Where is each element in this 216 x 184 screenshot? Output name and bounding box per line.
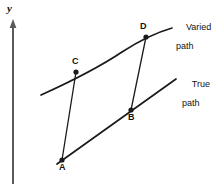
variational-paths-diagram: y A B C D Varied path True path — [0, 0, 216, 184]
true-path-label: True path — [182, 71, 210, 128]
y-axis-arrowhead — [10, 19, 17, 28]
y-axis-label: y — [7, 3, 12, 15]
y-axis — [10, 19, 17, 184]
varied-path-curve — [41, 28, 172, 95]
point-label-d: D — [140, 22, 147, 31]
point-marker-d — [143, 34, 148, 39]
point-marker-c — [73, 69, 78, 74]
true-path-label-line2: path — [182, 99, 210, 108]
varied-path-label-line1: Varied — [186, 22, 211, 32]
varied-path-label-line2: path — [176, 42, 211, 51]
connector-b-d — [131, 37, 146, 110]
point-label-c: C — [72, 57, 79, 66]
varied-path-label: Varied path — [176, 14, 211, 71]
connector-a-c — [62, 72, 76, 160]
true-path-line — [57, 79, 176, 164]
point-label-a: A — [59, 163, 66, 172]
point-label-b: B — [128, 113, 135, 122]
true-path-label-line1: True — [192, 79, 210, 89]
